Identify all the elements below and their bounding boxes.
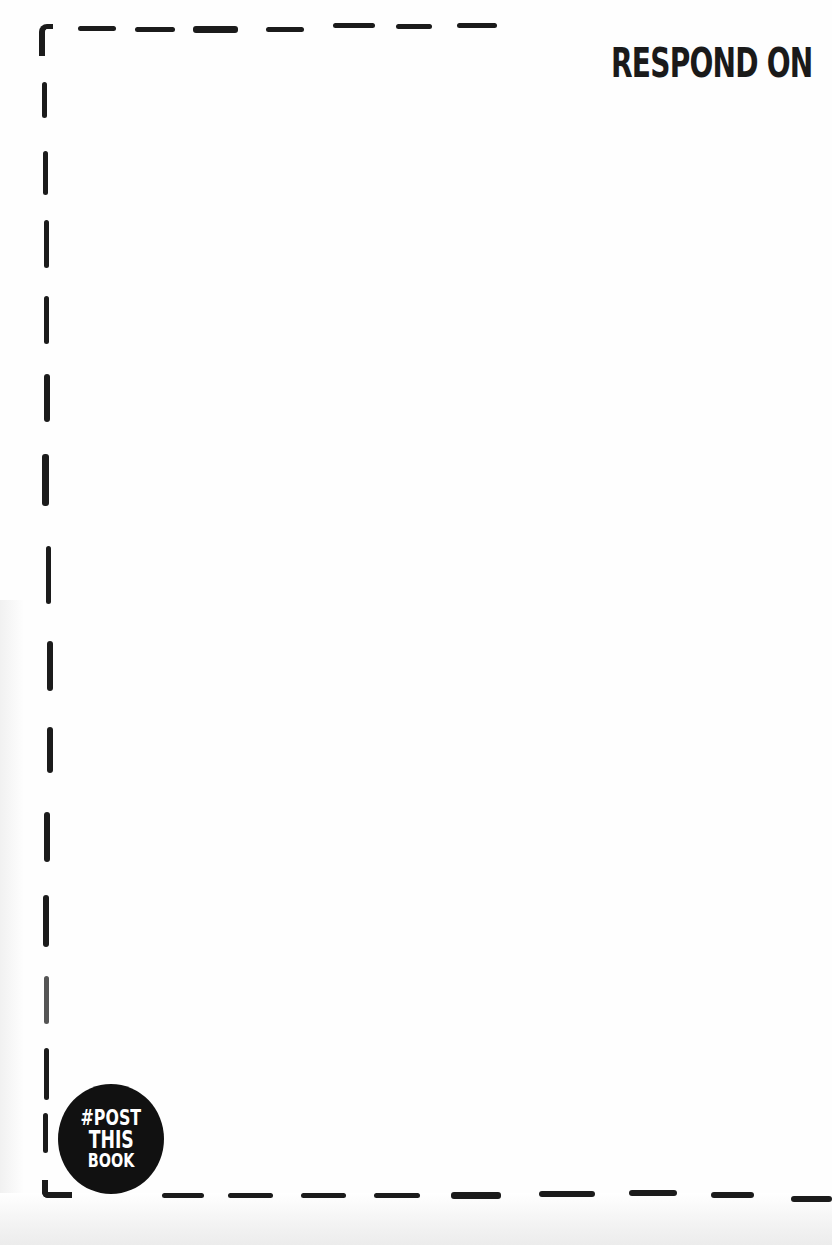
frame-dash (44, 976, 49, 1024)
frame-dash (43, 895, 49, 947)
frame-dash (42, 454, 49, 506)
frame-dash (42, 82, 47, 118)
frame-dash (711, 1192, 754, 1198)
book-page: RESPOND ON (0, 0, 832, 1245)
frame-dash (162, 1193, 204, 1198)
frame-dash (47, 641, 53, 691)
frame-corner-bottom-left (42, 1180, 72, 1198)
frame-dash (791, 1196, 832, 1202)
frame-dash (333, 23, 375, 28)
frame-dash (451, 1192, 501, 1199)
frame-dash (193, 26, 238, 33)
frame-dash (266, 27, 304, 32)
frame-dash (44, 812, 50, 862)
frame-corner-top-left (39, 24, 53, 56)
frame-dash (228, 1193, 273, 1198)
scan-shadow-bottom (0, 1193, 832, 1245)
frame-dash (135, 27, 175, 32)
frame-dash (539, 1191, 595, 1197)
frame-dash (43, 151, 48, 195)
frame-dash (44, 374, 50, 422)
frame-dash (44, 220, 49, 268)
frame-dash (44, 296, 49, 344)
frame-dash (396, 24, 432, 29)
page-heading: RESPOND ON (611, 40, 813, 86)
frame-dash (457, 23, 497, 28)
frame-dash (44, 1048, 49, 1100)
frame-dash (629, 1190, 677, 1196)
frame-dash (47, 727, 53, 773)
frame-dash (43, 1113, 48, 1153)
scan-shadow-left (0, 600, 24, 1200)
badge-line-3: BOOK (88, 1151, 135, 1170)
frame-dash (78, 26, 116, 31)
frame-dash (301, 1193, 346, 1198)
post-this-book-badge: #POST THIS BOOK (58, 1084, 164, 1194)
frame-dash (46, 546, 51, 604)
frame-dash (374, 1193, 420, 1198)
